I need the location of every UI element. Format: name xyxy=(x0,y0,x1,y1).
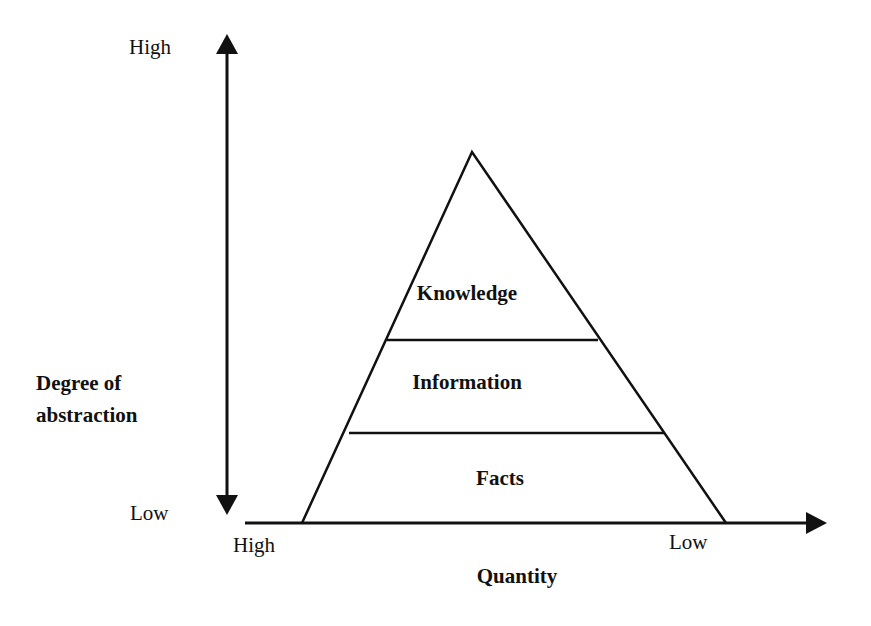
y-axis-arrowhead-down-icon xyxy=(216,495,238,515)
level-information-label: Information xyxy=(412,372,522,393)
x-axis-arrowhead-right-icon xyxy=(806,512,827,534)
x-axis-title: Quantity xyxy=(477,566,558,587)
y-axis-high-label: High xyxy=(129,37,171,58)
pyramid-diagram xyxy=(0,0,871,626)
level-knowledge-label: Knowledge xyxy=(417,283,517,304)
y-axis-low-label: Low xyxy=(130,503,169,524)
x-axis-right-label: Low xyxy=(669,532,708,553)
y-axis-arrowhead-up-icon xyxy=(216,34,238,54)
level-facts-label: Facts xyxy=(476,468,524,489)
x-axis-left-label: High xyxy=(233,535,275,556)
y-axis-title-line1: Degree of xyxy=(36,373,121,394)
y-axis-title-line2: abstraction xyxy=(36,405,138,426)
